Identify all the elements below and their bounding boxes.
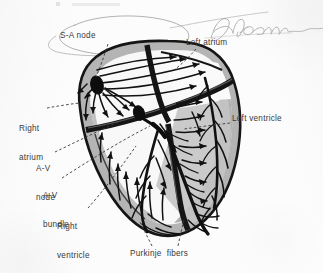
scan-smudge-bar-icon [72, 3, 120, 6]
pencil-sweep-stroke-icon [170, 12, 268, 28]
figure-canvas: S-A node Left atrium Right atrium Left v… [0, 0, 323, 273]
heart-conduction-diagram [0, 0, 323, 273]
pencil-signature-icon [205, 19, 323, 41]
leader-right-atrium [47, 103, 80, 108]
scan-smudge-icon [56, 2, 60, 6]
